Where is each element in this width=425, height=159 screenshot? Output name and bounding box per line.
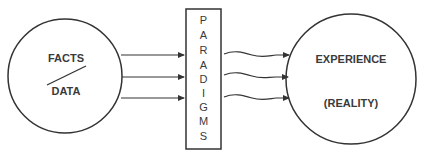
experience-label: EXPERIENCE <box>316 53 387 65</box>
paradigms-letter: M <box>199 115 208 127</box>
paradigms-letter: A <box>200 29 208 41</box>
experience-circle <box>286 14 416 144</box>
facts-label: FACTS <box>48 52 84 64</box>
experience-node: EXPERIENCE (REALITY) <box>286 14 416 144</box>
wavy-arrow-2 <box>224 73 288 78</box>
slash-divider <box>47 66 86 85</box>
data-label: DATA <box>52 85 81 97</box>
reality-label: (REALITY) <box>324 97 379 109</box>
paradigms-letter: S <box>200 130 207 142</box>
wavy-arrow-1 <box>224 52 289 57</box>
paradigms-letter: D <box>200 73 208 85</box>
facts-data-node: FACTS DATA <box>8 19 122 133</box>
paradigms-letter: P <box>200 14 207 26</box>
wavy-arrow-3 <box>224 95 289 100</box>
input-arrows <box>121 55 184 98</box>
output-wavy-arrows <box>224 52 289 100</box>
diagram-canvas: FACTS DATA P A R A D I G M S EXPERIENCE … <box>0 0 425 159</box>
paradigms-letter: R <box>200 44 208 56</box>
paradigms-node: P A R A D I G M S <box>186 9 221 149</box>
paradigms-letter: A <box>200 59 208 71</box>
paradigms-letter: I <box>202 87 205 99</box>
paradigms-letter: G <box>199 101 208 113</box>
